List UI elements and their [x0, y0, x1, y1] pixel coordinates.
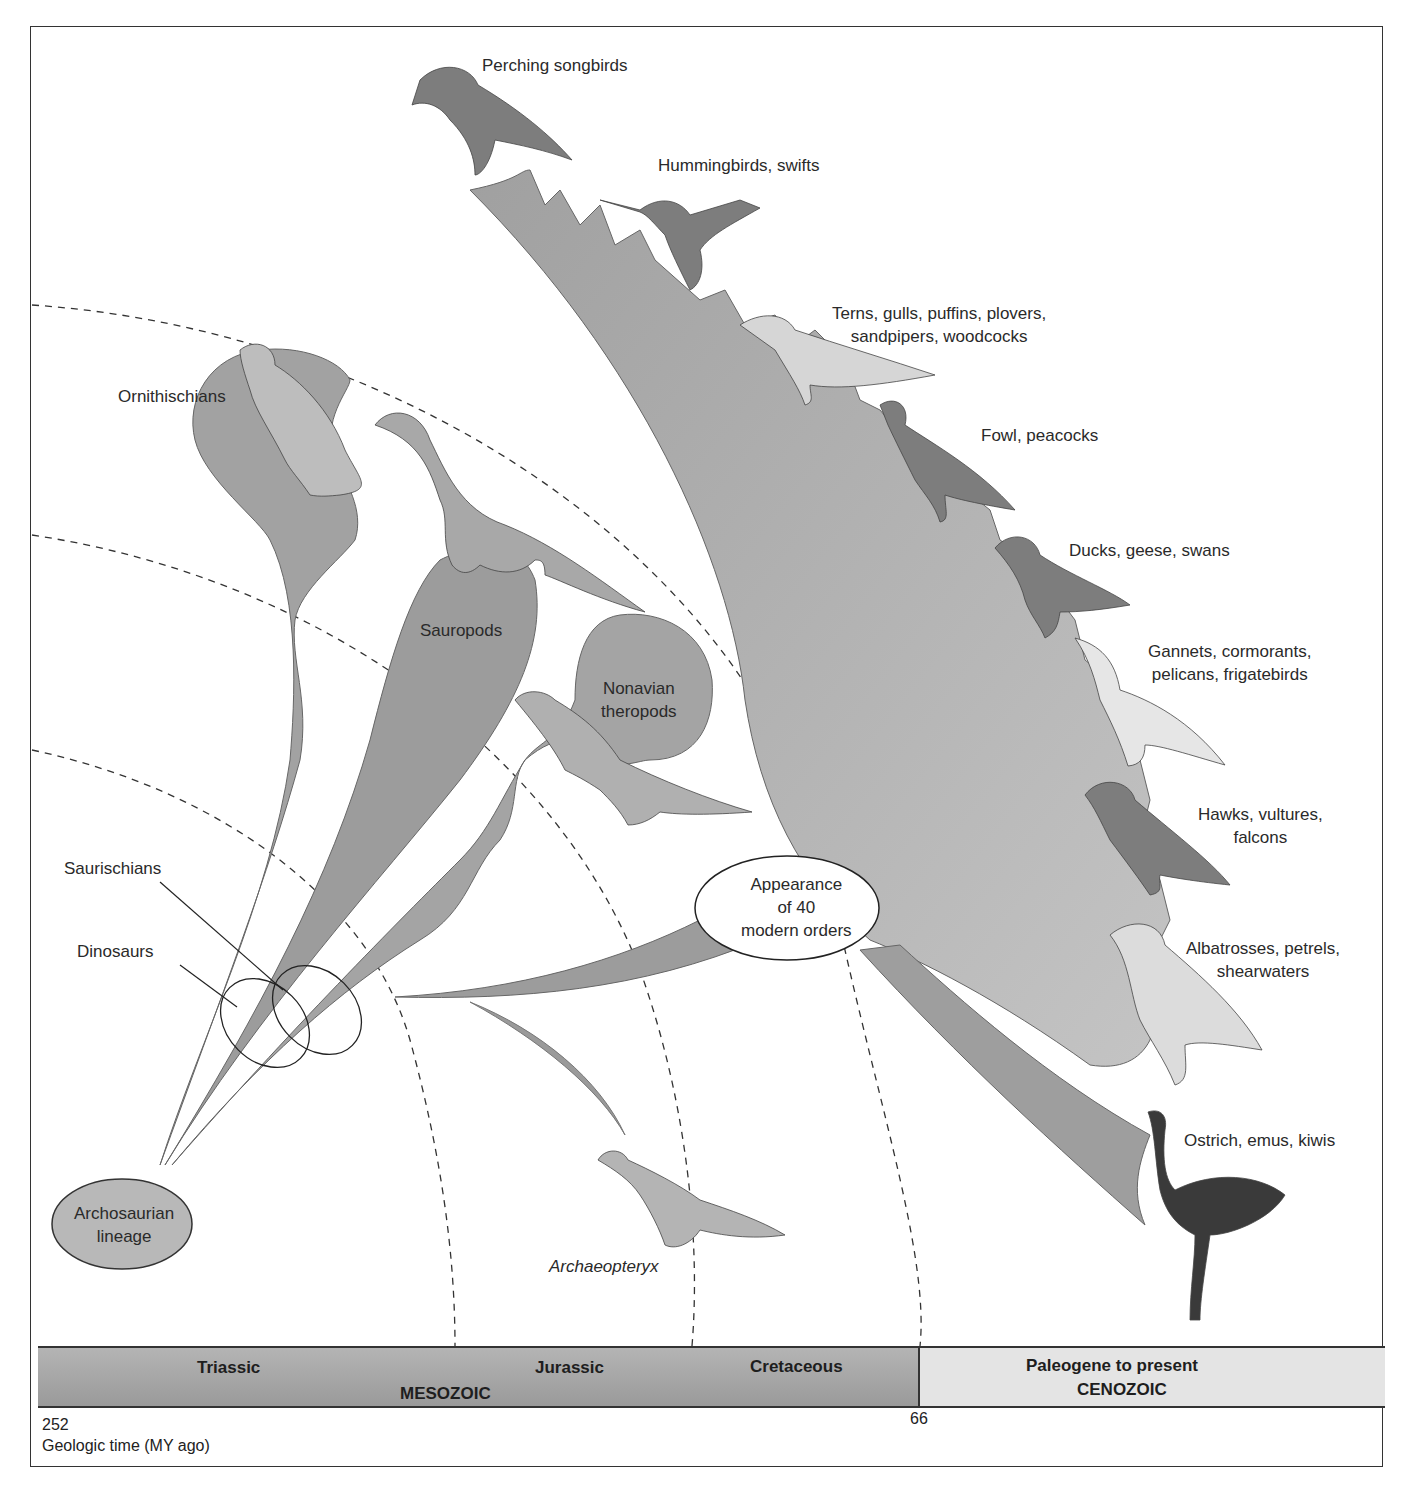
label-nonavian-line2: theropods — [601, 700, 677, 723]
label-saurischians: Saurischians — [64, 857, 161, 880]
tick-252: 252 — [42, 1416, 69, 1434]
era-cenozoic: CENOZOIC — [1077, 1380, 1167, 1400]
label-ostrich: Ostrich, emus, kiwis — [1184, 1129, 1335, 1152]
tick-66: 66 — [910, 1410, 928, 1428]
archaeopteryx-branch — [470, 1002, 625, 1135]
label-hawks-line1: Hawks, vultures, — [1198, 803, 1323, 826]
label-ornithischians: Ornithischians — [118, 385, 226, 408]
era-mesozoic: MESOZOIC — [400, 1384, 491, 1404]
period-jurassic: Jurassic — [535, 1358, 604, 1378]
label-fowl: Fowl, peacocks — [981, 424, 1098, 447]
label-terns: Terns, gulls, puffins, plovers, sandpipe… — [832, 302, 1046, 348]
mesozoic-band: Triassic Jurassic Cretaceous MESOZOIC — [38, 1348, 920, 1406]
label-nonavian-line1: Nonavian — [601, 677, 677, 700]
label-albatrosses: Albatrosses, petrels, shearwaters — [1186, 937, 1340, 983]
label-dinosaurs: Dinosaurs — [77, 940, 154, 963]
label-archosaurian-line1: Archosaurian — [74, 1202, 174, 1225]
label-nonavian-theropods: Nonavian theropods — [601, 677, 677, 723]
label-hummingbirds: Hummingbirds, swifts — [658, 154, 820, 177]
cenozoic-band: Paleogene to present CENOZOIC — [920, 1348, 1385, 1406]
label-albatrosses-line1: Albatrosses, petrels, — [1186, 937, 1340, 960]
time-scale: 252 66 Geologic time (MY ago) — [38, 1408, 1385, 1467]
period-triassic: Triassic — [197, 1358, 260, 1378]
label-hawks: Hawks, vultures, falcons — [1198, 803, 1323, 849]
label-radiation: Appearance of 40 modern orders — [741, 873, 852, 942]
label-terns-line2: sandpipers, woodcocks — [832, 325, 1046, 348]
archaeopteryx-icon — [598, 1151, 785, 1247]
label-hawks-line2: falcons — [1198, 826, 1323, 849]
label-terns-line1: Terns, gulls, puffins, plovers, — [832, 302, 1046, 325]
label-gannets-line2: pelicans, frigatebirds — [1148, 663, 1311, 686]
label-radiation-line2: of 40 — [741, 896, 852, 919]
time-axis-label: Geologic time (MY ago) — [42, 1437, 210, 1455]
label-gannets: Gannets, cormorants, pelicans, frigatebi… — [1148, 640, 1311, 686]
label-albatrosses-line2: shearwaters — [1186, 960, 1340, 983]
phylogeny-diagram — [0, 0, 1412, 1489]
label-radiation-line1: Appearance — [741, 873, 852, 896]
label-archosaurian-line2: lineage — [74, 1225, 174, 1248]
label-gannets-line1: Gannets, cormorants, — [1148, 640, 1311, 663]
label-sauropods: Sauropods — [420, 619, 502, 642]
label-archaeopteryx: Archaeopteryx — [549, 1255, 659, 1278]
label-archosaurian: Archosaurian lineage — [74, 1202, 174, 1248]
dinosaurs-leader — [180, 965, 237, 1007]
songbird-icon — [412, 67, 572, 175]
label-perching-songbirds: Perching songbirds — [482, 54, 628, 77]
geologic-timebar: Triassic Jurassic Cretaceous MESOZOIC Pa… — [38, 1346, 1385, 1408]
label-radiation-line3: modern orders — [741, 919, 852, 942]
label-ducks: Ducks, geese, swans — [1069, 539, 1230, 562]
period-paleogene: Paleogene to present — [1026, 1356, 1198, 1376]
period-cretaceous: Cretaceous — [750, 1357, 843, 1377]
saurischians-leader — [160, 882, 283, 990]
